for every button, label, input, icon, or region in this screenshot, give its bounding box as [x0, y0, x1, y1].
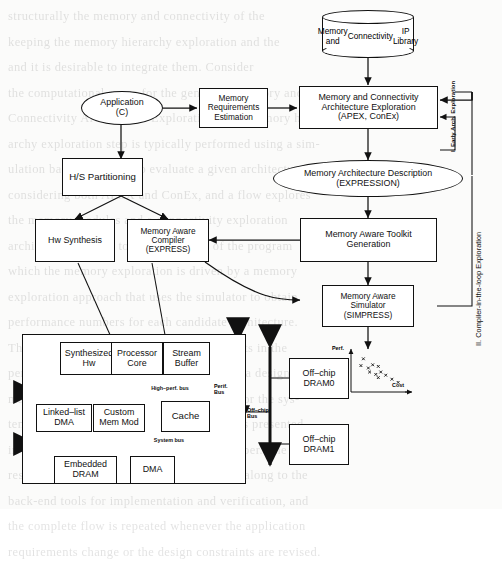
bus-label-perif: Perif. Bus	[214, 383, 236, 395]
off-chip-dram1-label: Off–chip DRAM1	[303, 435, 336, 455]
bus-label-high-perf: High–perf. bus	[134, 384, 206, 392]
mem-req-est-label: Memory Requirements Estimation	[208, 94, 260, 122]
hw-synthesis-label: Hw Synthesis	[48, 236, 102, 246]
node-memory-aware-compiler[interactable]: Memory Aware Compiler (EXPRESS)	[127, 219, 209, 262]
stream-buffer-label: Stream Buffer	[172, 349, 201, 369]
mem-compiler-label: Memory Aware Compiler (EXPRESS)	[140, 227, 195, 255]
bus-label-off-chip: Off–chip Bus	[247, 407, 273, 419]
scatter-point	[367, 367, 370, 370]
scatter-point	[384, 374, 387, 377]
toolkit-gen-label: Memory Aware Toolkit Generation	[325, 230, 411, 250]
scatter-point	[377, 376, 380, 379]
hs-partitioning-label: H/S Partitioning	[69, 172, 136, 183]
scatter-point	[371, 363, 374, 366]
scatter-point	[368, 371, 371, 374]
component-stream-buffer[interactable]: Stream Buffer	[163, 342, 210, 375]
phase-1-caption: I. Early Arch. Exploration	[450, 81, 457, 152]
linked-list-dma-label: Linked–list DMA	[43, 408, 85, 428]
cache-label: Cache	[172, 411, 200, 422]
node-off-chip-dram0[interactable]: Off–chip DRAM0	[289, 358, 349, 399]
node-off-chip-dram1[interactable]: Off–chip DRAM1	[289, 424, 349, 465]
scatter-point	[360, 364, 363, 367]
embedded-dram-label: Embedded DRAM	[64, 460, 107, 480]
node-architecture-exploration[interactable]: Memory and Connectivity Architecture Exp…	[299, 86, 438, 129]
bleed-line: the complete flow is repeated whenever t…	[8, 514, 494, 540]
design-space-scatter-plot	[351, 352, 413, 392]
scatter-point	[362, 357, 365, 360]
apex-conex-label: Memory and Connectivity Architecture Exp…	[318, 93, 418, 123]
component-dma[interactable]: DMA	[130, 456, 175, 484]
node-application[interactable]: Application (C)	[81, 91, 163, 125]
scatter-point	[391, 378, 394, 381]
phase-2-caption: II. Compiler-in-the-loop Exploration	[474, 232, 483, 346]
component-embedded-dram[interactable]: Embedded DRAM	[54, 456, 117, 484]
node-memory-architecture-description[interactable]: Memory Architecture Description (EXPRESS…	[273, 160, 463, 197]
application-label: Application (C)	[100, 98, 143, 118]
component-custom-mem-mod[interactable]: Custom Mem Mod	[93, 404, 145, 432]
off-chip-dram0-label: Off–chip DRAM0	[303, 369, 336, 389]
component-cache[interactable]: Cache	[161, 401, 210, 432]
component-linked-list-dma[interactable]: Linked–list DMA	[36, 404, 92, 432]
scatter-point	[377, 365, 380, 368]
scatter-point	[397, 381, 400, 384]
scatter-point	[374, 373, 377, 376]
mem-arch-desc-label: Memory Architecture Description (EXPRESS…	[304, 169, 432, 189]
scatter-point	[379, 371, 382, 374]
component-processor-core[interactable]: Processor Core	[111, 342, 163, 375]
processor-core-label: Processor Core	[117, 349, 157, 369]
node-memory-requirements-estimation[interactable]: Memory Requirements Estimation	[199, 88, 268, 128]
synthesized-hw-label: Synthesized Hw	[65, 349, 113, 369]
node-ip-library[interactable]: Memory and Connectivity IP Library	[322, 10, 414, 58]
component-synthesized-hw[interactable]: Synthesized Hw	[60, 342, 118, 375]
node-hw-synthesis[interactable]: Hw Synthesis	[35, 219, 115, 262]
node-toolkit-generation[interactable]: Memory Aware Toolkit Generation	[300, 218, 437, 262]
chart-ylabel: Perf.	[332, 345, 344, 351]
node-memory-aware-simulator[interactable]: Memory Aware Simulator (SIMPRESS)	[322, 285, 414, 327]
bleed-line: requirements change or the design constr…	[8, 540, 494, 563]
dma-label: DMA	[143, 465, 163, 475]
bus-label-system: System bus	[138, 436, 200, 444]
custom-mem-mod-label: Custom Mem Mod	[99, 408, 138, 428]
ip-library-label: Memory and Connectivity IP Library	[322, 19, 414, 54]
node-hs-partitioning[interactable]: H/S Partitioning	[62, 158, 143, 196]
simulator-label: Memory Aware Simulator (SIMPRESS)	[340, 292, 395, 320]
